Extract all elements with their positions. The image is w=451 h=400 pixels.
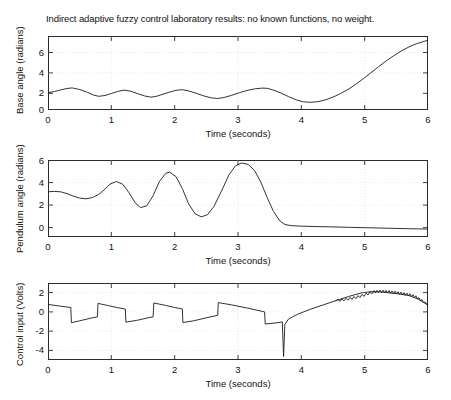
xaxis-label-base-angle: Time (seconds) [158,128,318,139]
subplot-control-input: 2 0 -2 -4 0 1 2 3 4 5 6 Time (seconds) C… [48,283,428,360]
subplot-base-angle: 0 2 4 6 0 1 2 3 4 5 6 Time (seconds) Bas… [48,36,428,110]
ytick-pendulum-angle-2: 2 [22,199,44,210]
faint-grid-control-input [48,283,428,360]
xtick-pendulum-angle-4: 4 [291,241,311,252]
xaxis-label-control-input: Time (seconds) [158,378,318,389]
xtick-control-input-4: 4 [291,364,311,375]
ytick-control-input-2: 2 [22,287,44,298]
ytick-pendulum-angle-4: 4 [22,177,44,188]
xtick-control-input-2: 2 [165,364,185,375]
xtick-pendulum-angle-1: 1 [101,241,121,252]
xtick-base-angle-0: 0 [38,114,58,125]
ytick-control-input-0: 0 [22,306,44,317]
figure-canvas: Indirect adaptive fuzzy control laborato… [0,0,451,400]
xtick-base-angle-2: 2 [165,114,185,125]
xtick-control-input-1: 1 [101,364,121,375]
xtick-base-angle-3: 3 [228,114,248,125]
xtick-pendulum-angle-0: 0 [38,241,58,252]
xtick-base-angle-6: 6 [418,114,438,125]
xtick-control-input-3: 3 [228,364,248,375]
yaxis-label-control-input: Control input (Volts) [14,283,25,366]
plot-area-control-input [48,283,428,360]
series-base-angle [48,40,428,102]
xtick-pendulum-angle-6: 6 [418,241,438,252]
yaxis-label-base-angle: Base angle (radians) [14,26,25,114]
xtick-base-angle-4: 4 [291,114,311,125]
xtick-base-angle-5: 5 [355,114,375,125]
xtick-pendulum-angle-3: 3 [228,241,248,252]
yaxis-label-pendulum-angle: Pendulum angle (radians) [14,144,25,253]
ytick-pendulum-angle-6: 6 [22,155,44,166]
ytick-base-angle-4: 4 [22,67,44,78]
xaxis-label-pendulum-angle: Time (seconds) [158,255,318,266]
xtick-control-input-0: 0 [38,364,58,375]
ytick-pendulum-angle-0: 0 [22,222,44,233]
ytick-control-input-neg4: -4 [22,344,44,355]
figure-title: Indirect adaptive fuzzy control laborato… [46,13,446,24]
xtick-pendulum-angle-2: 2 [165,241,185,252]
subplot-pendulum-angle: 0 2 4 6 0 1 2 3 4 5 6 Time (seconds) Pen… [48,160,428,237]
xtick-control-input-5: 5 [355,364,375,375]
x-tickmarks-pendulum-angle [111,160,364,237]
ytick-base-angle-2: 2 [22,87,44,98]
plot-area-pendulum-angle [48,160,428,237]
plot-area-base-angle [48,36,428,110]
ytick-control-input-neg2: -2 [22,325,44,336]
xtick-control-input-6: 6 [418,364,438,375]
xtick-base-angle-1: 1 [101,114,121,125]
x-tickmarks-control-input [111,283,364,360]
xtick-pendulum-angle-5: 5 [355,241,375,252]
ytick-base-angle-6: 6 [22,47,44,58]
faint-grid-pendulum-angle [48,160,428,237]
